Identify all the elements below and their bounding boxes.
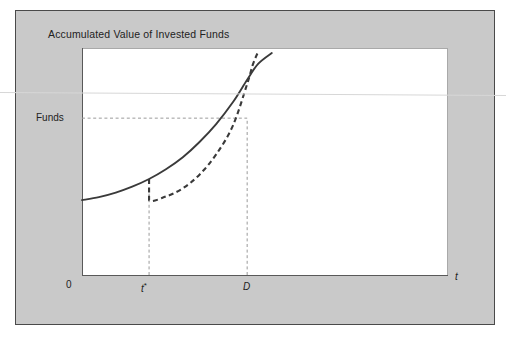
x-axis-name-label: t [455, 271, 458, 282]
x-axis-label-zero: 0 [66, 279, 72, 290]
figure-root: Accumulated Value of Invested Funds Fund… [0, 0, 506, 343]
t-star-asterisk: * [144, 281, 147, 290]
chart-overlay [0, 0, 506, 343]
continuous-accumulation-curve [82, 53, 272, 200]
y-axis-label-funds: Funds [36, 112, 64, 123]
interrupted-accumulation-curve [149, 52, 258, 201]
x-axis-label-t-star: t* [141, 281, 147, 294]
x-axis-label-d: D [243, 281, 250, 292]
